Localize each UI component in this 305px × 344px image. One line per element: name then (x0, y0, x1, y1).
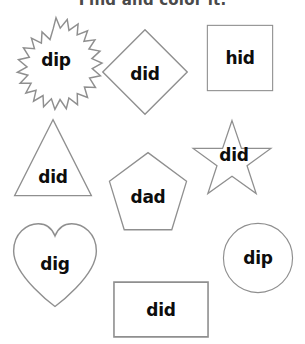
page-title: Find and color it. (0, 0, 305, 9)
rectangle-outline (114, 282, 208, 337)
square-outline (207, 25, 272, 90)
circle-outline (223, 223, 292, 292)
shape-diamond[interactable]: did (101, 28, 189, 116)
shape-triangle[interactable]: did (12, 118, 94, 198)
diamond-outline (103, 30, 187, 114)
shape-rectangle[interactable]: did (112, 281, 210, 338)
shape-pentagon[interactable]: dad (104, 151, 192, 233)
shape-square[interactable]: hid (206, 24, 274, 92)
triangle-outline (15, 120, 92, 196)
heart-outline (14, 224, 97, 307)
shape-starburst[interactable]: dip (10, 16, 102, 108)
shape-circle[interactable]: dip (222, 222, 294, 294)
pentagon-outline (109, 153, 186, 230)
star-outline (193, 121, 271, 194)
starburst-outline (17, 18, 102, 110)
worksheet-page: Find and color it. dip did hid did dad (0, 0, 305, 344)
shape-heart[interactable]: dig (8, 222, 102, 310)
shape-star[interactable]: did (183, 119, 281, 199)
